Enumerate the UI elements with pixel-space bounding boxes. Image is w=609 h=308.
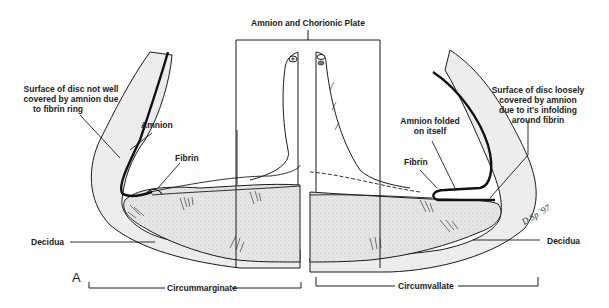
label-right-surface-line2: covered by amnion	[488, 95, 588, 105]
right-umbilical-cord	[316, 52, 410, 192]
label-amnion-chorionic-plate: Amnion and Chorionic Plate	[235, 18, 381, 28]
panel-letter: A	[72, 270, 81, 285]
label-right-amnion-folded: Amnion folded on itself	[398, 116, 462, 136]
label-circumvallate: Circumvallate	[398, 281, 454, 291]
label-right-surface-line3: due to it's infolding	[488, 105, 588, 115]
label-left-surface-line1: Surface of disc not well	[18, 84, 124, 94]
label-right-surface-line4: around fibrin	[488, 115, 588, 125]
left-placental-disc	[124, 184, 300, 262]
label-left-amnion: Amnion	[141, 120, 173, 130]
leader-right-fibrin	[420, 170, 437, 188]
label-left-surface-line3: to fibrin ring	[18, 104, 124, 114]
label-left-surface-line2: covered by amnion due	[18, 94, 124, 104]
label-right-surface-line1: Surface of disc loosely	[488, 85, 588, 95]
leader-left-fibrin	[158, 163, 180, 188]
left-umbilical-cord	[250, 52, 298, 185]
leader-right-folded	[432, 141, 455, 188]
bottom-brackets	[89, 277, 538, 288]
placenta-diagram: D Sp '97	[0, 0, 609, 308]
label-left-decidua: Decidua	[31, 237, 64, 247]
label-left-fibrin: Fibrin	[175, 153, 199, 163]
label-right-surface: Surface of disc loosely covered by amnio…	[488, 85, 588, 125]
label-circummarginate: Circummarginate	[167, 283, 237, 293]
label-left-surface: Surface of disc not well covered by amni…	[18, 84, 124, 114]
label-right-fibrin: Fibrin	[404, 157, 428, 167]
label-right-decidua: Decidua	[547, 236, 580, 246]
label-right-amnion-folded-line2: on itself	[398, 126, 462, 136]
label-right-amnion-folded-line1: Amnion folded	[398, 116, 462, 126]
